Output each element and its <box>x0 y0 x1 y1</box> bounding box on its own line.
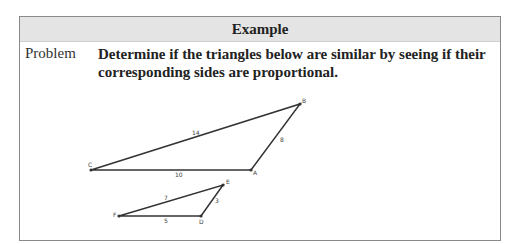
side-ca-label: 10 <box>175 171 183 178</box>
side-ba-label: 8 <box>280 136 284 143</box>
vertex-c-label: C <box>88 161 92 168</box>
vertex-e-label: E <box>226 178 230 185</box>
vertex-a-label: A <box>253 169 258 176</box>
triangle-def <box>119 185 223 216</box>
vertex-d-label: D <box>199 218 204 225</box>
vertex-b-label: B <box>302 97 306 104</box>
side-cb-label: 14 <box>192 129 200 136</box>
side-fd-label: 5 <box>164 217 168 224</box>
triangle-abc <box>91 104 300 170</box>
side-ed-label: 3 <box>215 197 219 204</box>
side-fe-label: 7 <box>164 194 168 201</box>
vertex-f-label: F <box>113 211 117 218</box>
triangles-figure: C B A 14 8 10 F E D 7 3 5 <box>0 0 514 244</box>
